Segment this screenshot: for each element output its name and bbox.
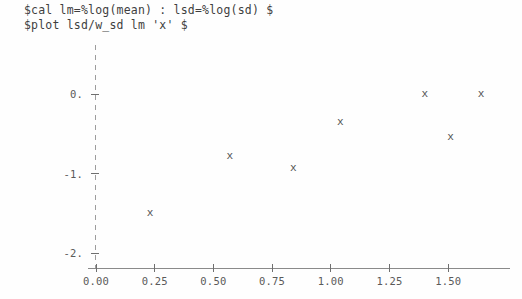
data-point-marker: x [447, 130, 454, 143]
plot-screenshot: $cal lm=%log(mean) : lsd=%log(sd) $ $plo… [0, 0, 522, 299]
x-tick-label: 1.00 [318, 275, 344, 287]
x-tick-label: 0.25 [142, 275, 168, 287]
data-point-marker: x [227, 149, 234, 162]
data-point-marker: x [290, 161, 297, 174]
data-point-marker: x [478, 87, 485, 100]
y-tick-label: -2. [63, 247, 83, 259]
x-axis-ticks: 0.000.250.500.751.001.251.50 [83, 264, 461, 287]
data-point-layer: xxxxxxx [147, 87, 485, 219]
scatter-plot: 0.000.250.500.751.001.251.50 0.-1.-2. xx… [0, 0, 522, 299]
y-axis-ticks: 0.-1.-2. [63, 88, 99, 259]
y-tick-label: -1. [63, 168, 83, 180]
plot-axes [88, 45, 510, 268]
x-tick-label: 1.50 [435, 275, 461, 287]
x-tick-label: 0.00 [83, 275, 109, 287]
data-point-marker: x [337, 115, 344, 128]
y-tick-label: 0. [70, 88, 83, 100]
x-tick-label: 1.25 [376, 275, 402, 287]
data-point-marker: x [421, 87, 428, 100]
x-tick-label: 0.50 [200, 275, 226, 287]
x-tick-label: 0.75 [259, 275, 285, 287]
data-point-marker: x [147, 206, 154, 219]
